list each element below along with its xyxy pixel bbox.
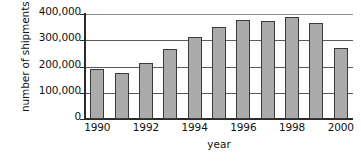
x-axis-tick-label: 1990 [75, 121, 119, 133]
y-axis-tick-mark [80, 119, 86, 120]
y-axis-tick-mark [80, 67, 86, 68]
bar [139, 63, 153, 119]
bar [115, 73, 129, 119]
bar [163, 49, 177, 119]
bar [236, 20, 250, 119]
bar [285, 17, 299, 119]
plot-area [85, 14, 353, 119]
y-axis-tick-label: 200,000 [25, 59, 81, 70]
y-axis-tick-mark [80, 14, 86, 15]
y-axis-tick-label: 400,000 [25, 6, 81, 17]
x-axis-tick-label: 1994 [173, 121, 217, 133]
y-axis-tick-mark [80, 93, 86, 94]
y-axis-tick-labels: 0100,000200,000300,000400,000 [25, 8, 81, 125]
bar [90, 69, 104, 119]
x-axis-tick-label: 1998 [270, 121, 314, 133]
x-axis-tick-label: 1992 [124, 121, 168, 133]
y-axis-tick-label: 300,000 [25, 32, 81, 43]
bars-layer [85, 14, 353, 119]
x-axis-tick-label: 1996 [221, 121, 265, 133]
y-axis-tick-label: 100,000 [25, 85, 81, 96]
bar [334, 48, 348, 119]
bar [309, 23, 323, 119]
bar [212, 27, 226, 119]
y-axis-tick-mark [80, 40, 86, 41]
x-axis-tick-label: 2000 [319, 121, 361, 133]
bar [188, 37, 202, 119]
y-axis-tick-label: 0 [25, 111, 81, 122]
x-axis-title: year [85, 138, 353, 150]
bar [261, 21, 275, 119]
bar-chart-figure: number of shipments 0100,000200,000300,0… [0, 0, 361, 163]
x-axis-tick-labels: 199019921994199619982000 [85, 121, 353, 135]
